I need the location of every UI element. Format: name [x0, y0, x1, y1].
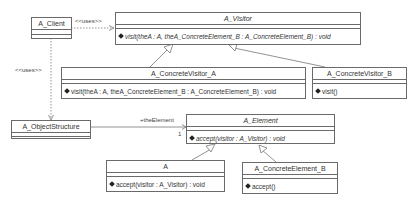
class-a-concrete-visitor-b[interactable]: A_ConcreteVisitor_B visit(): [312, 67, 407, 99]
class-name: A_Client: [32, 18, 71, 30]
operation: visit(theA : A, theA_ConcreteElement_B :…: [62, 84, 305, 97]
association-role-label: +theElement: [140, 117, 174, 123]
operation-icon: [189, 135, 195, 141]
operation: accept(visitor : A_Visitor) : void: [187, 131, 334, 144]
class-a-element[interactable]: A_Element accept(visitor : A_Visitor) : …: [186, 114, 335, 144]
class-a-concrete-element-b[interactable]: A_ConcreteElement_B accept(): [242, 162, 338, 194]
operation-icon: [118, 33, 124, 39]
class-a-concrete-visitor-a[interactable]: A_ConcreteVisitor_A visit(theA : A, theA…: [61, 67, 306, 99]
class-a-visitor[interactable]: A_Visitor visit(theA : A, theA_ConcreteE…: [115, 12, 361, 45]
operations-compartment: [32, 35, 71, 39]
class-name: A_Visitor: [116, 13, 360, 25]
class-name: A_ConcreteVisitor_A: [62, 68, 305, 80]
class-a-object-structure[interactable]: A_ObjectStructure: [11, 120, 91, 139]
operation-icon: [315, 88, 321, 94]
operation-icon: [64, 88, 70, 94]
uses-stereotype-label-visitor: <<uses>>: [75, 18, 102, 24]
operation: visit(): [313, 84, 406, 97]
class-name: A_ObjectStructure: [12, 121, 90, 133]
operation: accept(): [243, 179, 337, 192]
operations-compartment: [12, 137, 90, 140]
operation: visit(theA : A, theA_ConcreteElement_B :…: [116, 29, 360, 42]
operation-icon: [109, 181, 115, 187]
operation: accept(visitor : A_Visitor) : void: [107, 177, 224, 190]
class-name: A: [107, 161, 224, 173]
operation-icon: [245, 183, 251, 189]
class-name: A_ConcreteVisitor_B: [313, 68, 406, 80]
class-name: A_Element: [187, 115, 334, 127]
class-a[interactable]: A accept(visitor : A_Visitor) : void: [106, 160, 225, 192]
uses-stereotype-label-object-structure: <<uses>>: [15, 67, 42, 73]
class-name: A_ConcreteElement_B: [243, 163, 337, 175]
class-a-client[interactable]: A_Client: [31, 17, 72, 39]
association-multiplicity-label: 1: [178, 131, 181, 137]
